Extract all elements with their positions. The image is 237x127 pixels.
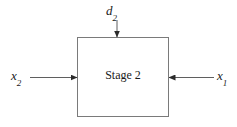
signal-label-x1: x1 — [217, 69, 227, 86]
signal-subscript-x1: 1 — [223, 78, 228, 88]
signal-label-d2: d2 — [106, 4, 117, 21]
stage-block-label: Stage 2 — [77, 69, 169, 81]
signal-subscript-x2: 2 — [17, 78, 22, 88]
signal-symbol-x2: x — [11, 68, 17, 83]
signal-symbol-d: d — [106, 3, 113, 18]
signal-subscript-d2: 2 — [113, 13, 118, 23]
signal-symbol-x1: x — [217, 68, 223, 83]
block-diagram: d2 x2 x1 Stage 2 — [0, 0, 237, 127]
signal-label-x2: x2 — [11, 69, 21, 86]
diagram-canvas — [0, 0, 237, 127]
